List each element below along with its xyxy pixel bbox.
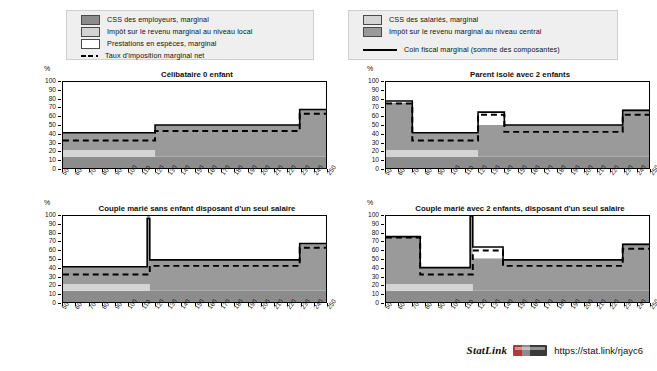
y-tick-label: 50 (345, 122, 379, 129)
y-tick-mark (381, 250, 384, 251)
y-tick-mark (58, 259, 61, 260)
x-axis: 5060708090100110120130140150160170180190… (385, 169, 650, 199)
y-tick-mark (58, 99, 61, 100)
area-series (386, 103, 649, 157)
y-tick-mark (58, 241, 61, 242)
y-tick-mark (381, 81, 384, 82)
legend-item: Impôt sur le revenu marginal au niveau c… (363, 26, 617, 37)
y-tick-mark (381, 233, 384, 234)
y-tick-mark (58, 233, 61, 234)
chart-panel-parent-isole-2-enfants: % Parent isolé avec 2 enfants 0102030405… (345, 66, 655, 199)
x-tick-label: 100 (127, 298, 138, 310)
area-series (386, 157, 649, 168)
tax-wedge-line (386, 216, 649, 268)
swatch-local-income-tax-icon (81, 27, 100, 37)
y-tick-mark (381, 259, 384, 260)
area-series (63, 291, 326, 302)
x-tick-label: 50 (384, 301, 393, 310)
y-tick-mark (58, 143, 61, 144)
x-tick-label: 220 (609, 298, 620, 310)
y-tick-label: 90 (345, 220, 379, 227)
x-axis: 5060708090100110120130140150160170180190… (385, 303, 650, 333)
x-tick-label: 250 (326, 164, 337, 176)
y-tick-label: 50 (345, 256, 379, 263)
statlink-url[interactable]: https://stat.link/rjayc6 (554, 345, 643, 356)
y-tick-mark (58, 81, 61, 82)
y-tick-label: 70 (345, 238, 379, 245)
y-tick-mark (58, 294, 61, 295)
x-tick-label: 140 (503, 298, 514, 310)
x-tick-label: 180 (556, 298, 567, 310)
x-tick-label: 80 (101, 167, 110, 176)
swatch-employee-sc-icon (363, 15, 382, 25)
x-tick-label: 250 (649, 298, 657, 310)
y-tick-label: 60 (345, 247, 379, 254)
legend-item: Taux d'imposition marginal net (81, 50, 313, 61)
y-tick-label: 100 (22, 212, 56, 219)
y-tick-label: 10 (345, 291, 379, 298)
legend-item: Coin fiscal marginal (somme des composan… (363, 44, 617, 55)
y-unit-label: % (367, 65, 373, 72)
legend-left: CSS des employeurs, marginal Impôt sur l… (66, 10, 314, 60)
plot-area (62, 81, 327, 169)
tax-wedge-line (63, 219, 326, 267)
legend-label: CSS des employeurs, marginal (107, 15, 209, 24)
x-tick-label: 250 (649, 164, 657, 176)
y-tick-mark (58, 268, 61, 269)
y-tick-label: 20 (345, 282, 379, 289)
y-tick-mark (58, 116, 61, 117)
area-series (63, 157, 326, 168)
swatch-cash-benefits-icon (81, 39, 100, 49)
y-axis: 0102030405060708090100 (345, 215, 383, 303)
legend-area: CSS des employeurs, marginal Impôt sur l… (0, 0, 657, 62)
x-tick-label: 220 (286, 298, 297, 310)
x-tick-label: 180 (233, 164, 244, 176)
y-tick-mark (381, 294, 384, 295)
y-tick-mark (58, 90, 61, 91)
y-unit-label: % (44, 65, 50, 72)
y-tick-label: 70 (22, 238, 56, 245)
y-tick-label: 40 (345, 264, 379, 271)
legend-right: CSS des salariés, marginal Impôt sur le … (348, 10, 618, 60)
y-tick-label: 40 (22, 264, 56, 271)
y-tick-mark (381, 268, 384, 269)
swatch-central-income-tax-icon (363, 27, 382, 37)
chart-title: Couple marié avec 2 enfants, disposant d… (385, 204, 655, 213)
x-tick-label: 220 (286, 164, 297, 176)
y-axis: 0102030405060708090100 (22, 215, 60, 303)
y-tick-mark (58, 215, 61, 216)
y-tick-mark (58, 277, 61, 278)
x-axis: 5060708090100110120130140150160170180190… (62, 169, 327, 199)
y-tick-mark (58, 160, 61, 161)
x-tick-label: 80 (424, 301, 433, 310)
y-tick-mark (381, 125, 384, 126)
y-tick-label: 20 (22, 148, 56, 155)
y-tick-label: 100 (345, 78, 379, 85)
y-tick-mark (58, 134, 61, 135)
y-tick-mark (381, 116, 384, 117)
y-tick-mark (381, 99, 384, 100)
legend-item: CSS des employeurs, marginal (81, 14, 313, 25)
y-tick-label: 10 (345, 157, 379, 164)
x-tick-label: 250 (326, 298, 337, 310)
plot-area (62, 215, 327, 303)
y-tick-label: 90 (345, 86, 379, 93)
x-tick-label: 60 (397, 167, 406, 176)
x-tick-label: 100 (127, 164, 138, 176)
y-tick-label: 70 (345, 104, 379, 111)
x-tick-label: 80 (101, 301, 110, 310)
statlink-block: StatLink https://stat.link/rjayc6 (467, 344, 643, 356)
chart-title: Parent isolé avec 2 enfants (385, 70, 655, 79)
x-tick-label: 60 (397, 301, 406, 310)
y-tick-mark (381, 143, 384, 144)
y-tick-label: 30 (345, 273, 379, 280)
y-tick-label: 60 (22, 113, 56, 120)
y-tick-label: 10 (22, 291, 56, 298)
x-tick-label: 90 (437, 301, 446, 310)
x-axis: 5060708090100110120130140150160170180190… (62, 303, 327, 333)
y-tick-label: 90 (22, 220, 56, 227)
solid-line-icon (363, 46, 397, 54)
y-tick-label: 70 (22, 104, 56, 111)
figure-root: CSS des employeurs, marginal Impôt sur l… (0, 0, 657, 371)
x-tick-label: 180 (233, 298, 244, 310)
